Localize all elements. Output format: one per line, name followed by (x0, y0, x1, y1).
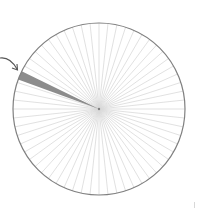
sector-spoke (99, 30, 134, 109)
stray-mark (194, 202, 195, 208)
sector-spoke (99, 109, 178, 144)
sector-spoke (99, 109, 134, 188)
center-point (98, 108, 100, 110)
sector-spoke (99, 74, 178, 109)
sector-spoke (20, 109, 99, 144)
divided-circle-diagram (0, 0, 198, 210)
arrow-shaft (0, 58, 17, 69)
pointer-arrow (0, 58, 18, 70)
highlighted-sector (18, 71, 99, 109)
sector-spoke (64, 109, 99, 188)
